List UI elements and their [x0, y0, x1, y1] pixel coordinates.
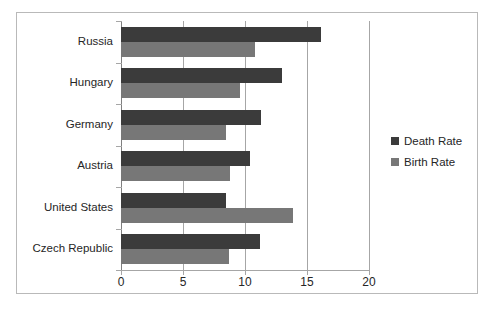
y-tick-mark-5 — [116, 21, 122, 22]
bar-death-rate-hungary — [121, 68, 282, 83]
bar-death-rate-united-states — [121, 193, 226, 208]
chart-legend: Death Rate Birth Rate — [391, 135, 479, 177]
gridline-15 — [307, 21, 308, 270]
category-label-austria: Austria — [0, 159, 113, 172]
bar-birth-rate-czech-republic — [121, 249, 229, 264]
plot-area — [121, 21, 369, 270]
y-tick-mark-2 — [116, 146, 122, 147]
y-tick-mark-base — [116, 270, 122, 271]
bar-birth-rate-russia — [121, 42, 255, 57]
gridline-10 — [245, 21, 246, 270]
legend-item-birth-rate: Birth Rate — [391, 156, 479, 168]
category-label-germany: Germany — [0, 118, 113, 131]
bar-death-rate-germany — [121, 110, 261, 125]
y-tick-mark-1 — [116, 187, 122, 188]
gridline-20 — [369, 21, 370, 270]
x-axis-line — [121, 270, 370, 271]
gridline-5 — [183, 21, 184, 270]
legend-item-death-rate: Death Rate — [391, 135, 479, 147]
y-tick-mark-0 — [116, 229, 122, 230]
y-tick-mark-3 — [116, 104, 122, 105]
y-tick-mark-4 — [116, 63, 122, 64]
bar-birth-rate-hungary — [121, 83, 240, 98]
bar-birth-rate-germany — [121, 125, 226, 140]
category-label-russia: Russia — [0, 35, 113, 48]
category-label-hungary: Hungary — [0, 76, 113, 89]
bar-birth-rate-united-states — [121, 208, 293, 223]
bar-death-rate-austria — [121, 151, 250, 166]
bar-birth-rate-austria — [121, 166, 230, 181]
x-tick-label-0: 0 — [106, 275, 136, 289]
legend-swatch-birth-rate — [391, 158, 399, 166]
x-tick-label-15: 15 — [292, 275, 322, 289]
chart-frame: 05101520Czech RepublicUnited StatesAustr… — [16, 12, 478, 294]
category-label-czech-republic: Czech Republic — [0, 242, 113, 255]
legend-label-death-rate: Death Rate — [404, 135, 462, 147]
x-tick-label-20: 20 — [354, 275, 384, 289]
x-tick-label-10: 10 — [230, 275, 260, 289]
bar-death-rate-czech-republic — [121, 234, 260, 249]
x-tick-label-5: 5 — [168, 275, 198, 289]
legend-label-birth-rate: Birth Rate — [404, 156, 455, 168]
category-label-united-states: United States — [0, 201, 113, 214]
bar-death-rate-russia — [121, 27, 321, 42]
legend-swatch-death-rate — [391, 137, 399, 145]
